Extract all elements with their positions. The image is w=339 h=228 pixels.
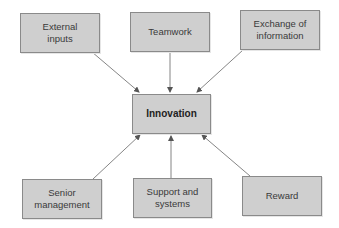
node-reward: Reward [242, 176, 322, 216]
node-exchange-of-information: Exchange of information [240, 10, 320, 50]
arrow-exchange-of-information [197, 50, 243, 92]
node-teamwork: Teamwork [130, 12, 210, 52]
node-senior-management: Senior management [22, 179, 102, 219]
node-innovation: Innovation [132, 94, 211, 134]
arrow-reward [202, 135, 250, 176]
node-label: Innovation [146, 108, 197, 120]
arrow-external-inputs [92, 52, 139, 92]
node-external-inputs: External inputs [20, 13, 100, 53]
node-label: Reward [266, 190, 299, 202]
node-label: Teamwork [148, 26, 191, 38]
arrow-senior-management [93, 135, 140, 179]
node-label: Senior management [34, 187, 89, 211]
node-label: Exchange of information [254, 18, 307, 42]
node-support-and-systems: Support and systems [133, 178, 212, 218]
node-label: Support and systems [147, 186, 199, 210]
node-label: External inputs [43, 21, 78, 45]
